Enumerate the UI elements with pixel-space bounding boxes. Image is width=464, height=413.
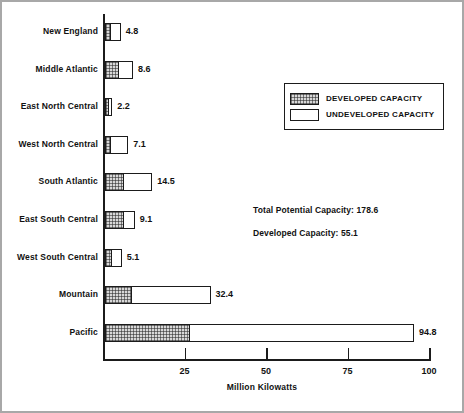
x-axis-title: Million Kilowatts: [0, 382, 464, 392]
legend-item-developed: DEVELOPED CAPACITY: [290, 91, 438, 106]
bar-category-label: East South Central: [0, 214, 98, 224]
axis-tick-label: 75: [342, 366, 352, 376]
bar-total-segment: [105, 23, 121, 41]
bar-row: East South Central9.1: [0, 210, 464, 230]
axis-tick-mark: [266, 348, 268, 359]
bar-developed-segment: [106, 287, 132, 303]
bar-total-segment: [105, 136, 128, 154]
bar-developed-segment: [106, 250, 112, 266]
bar-total-segment: [105, 211, 135, 229]
bar-category-label: West North Central: [0, 139, 98, 149]
bar-developed-segment: [106, 24, 111, 40]
bar-chart: New England4.8Middle Atlantic8.6East Nor…: [0, 0, 464, 413]
page-edge-top: [0, 0, 464, 2]
bar-category-label: East North Central: [0, 101, 98, 111]
bar-value-label: 32.4: [216, 289, 234, 299]
bar-developed-segment: [106, 325, 190, 341]
bar-category-label: Middle Atlantic: [0, 64, 98, 74]
bar-value-label: 14.5: [157, 176, 175, 186]
bar-developed-segment: [106, 174, 124, 190]
annotation-total-potential-capacity: Total Potential Capacity: 178.6: [253, 205, 378, 215]
axis-end-cap-left: [103, 350, 105, 361]
bar-total-segment: [105, 98, 112, 116]
bar-row: Mountain32.4: [0, 285, 464, 305]
bar-value-label: 94.8: [419, 327, 437, 337]
axis-tick-mark: [185, 348, 187, 359]
bar-total-segment: [105, 324, 414, 342]
bar-total-segment: [105, 286, 211, 304]
bar-total-segment: [105, 61, 133, 79]
legend-swatch-developed: [290, 93, 319, 105]
legend-swatch-undeveloped: [290, 109, 319, 121]
bar-developed-segment: [106, 137, 111, 153]
bar-value-label: 7.1: [133, 139, 146, 149]
axis-tick-mark: [348, 348, 350, 359]
bar-row: West North Central7.1: [0, 135, 464, 155]
bar-value-label: 5.1: [127, 252, 140, 262]
legend-item-undeveloped: UNDEVELOPED CAPACITY: [290, 107, 438, 122]
bar-row: Middle Atlantic8.6: [0, 60, 464, 80]
chart-legend: DEVELOPED CAPACITY UNDEVELOPED CAPACITY: [284, 83, 444, 130]
legend-label-developed: DEVELOPED CAPACITY: [326, 94, 422, 103]
bar-value-label: 8.6: [138, 64, 151, 74]
bar-developed-segment: [106, 62, 119, 78]
bar-total-segment: [105, 173, 152, 191]
bar-value-label: 2.2: [117, 101, 130, 111]
bar-developed-segment: [106, 99, 109, 115]
axis-tick-mark: [429, 348, 431, 359]
bar-category-label: South Atlantic: [0, 176, 98, 186]
bar-category-label: West South Central: [0, 252, 98, 262]
bar-category-label: Mountain: [0, 289, 98, 299]
value-axis-line: [103, 359, 431, 361]
bar-row: Pacific94.8: [0, 323, 464, 343]
axis-tick-label: 100: [421, 366, 436, 376]
bar-developed-segment: [106, 212, 124, 228]
annotation-developed-capacity: Developed Capacity: 55.1: [253, 228, 358, 238]
bar-row: South Atlantic14.5: [0, 172, 464, 192]
axis-tick-label: 25: [179, 366, 189, 376]
bar-value-label: 9.1: [140, 214, 153, 224]
legend-label-undeveloped: UNDEVELOPED CAPACITY: [326, 110, 434, 119]
bar-category-label: New England: [0, 26, 98, 36]
bar-row: New England4.8: [0, 22, 464, 42]
bar-category-label: Pacific: [0, 327, 98, 337]
bar-row: West South Central5.1: [0, 248, 464, 268]
bar-total-segment: [105, 249, 122, 267]
axis-tick-label: 50: [261, 366, 271, 376]
bar-value-label: 4.8: [126, 26, 139, 36]
